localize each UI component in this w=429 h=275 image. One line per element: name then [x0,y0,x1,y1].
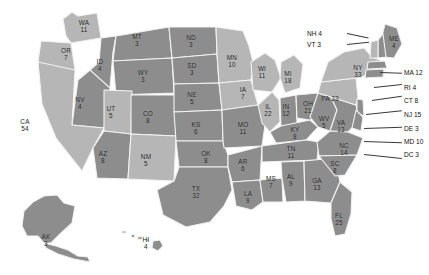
state-ok[interactable] [176,141,228,167]
state-co[interactable] [131,95,176,136]
state-vt[interactable] [370,40,378,58]
callout-ri: RI 4 [404,84,416,91]
state-ut[interactable] [104,90,132,134]
state-al[interactable] [281,161,305,202]
state-nc[interactable] [317,131,363,156]
state-ak[interactable] [22,195,75,243]
state-wi[interactable] [251,53,281,92]
state-mi[interactable] [280,55,303,93]
state-mt[interactable] [113,27,172,61]
state-nd[interactable] [169,27,217,58]
callout-md: MD 10 [404,138,423,145]
state-wa[interactable] [63,12,101,43]
callout-ma: MA 12 [404,69,423,76]
state-shapes [22,12,402,262]
us-electoral-map: WA11OR7CA54NV4ID4MT3WY3UT5CO8AZ8NM5ND3SD… [0,0,429,275]
callout-de: DE 3 [404,125,419,132]
callout-nh: NH 4 [307,30,322,37]
state-wy[interactable] [113,58,174,95]
state-ma[interactable] [367,61,387,69]
state-ne[interactable] [174,83,222,112]
state-nm[interactable] [128,134,176,181]
state-ks[interactable] [174,110,223,141]
state-az[interactable] [93,131,131,179]
state-la[interactable] [232,180,263,210]
callout-dc: DC 3 [404,151,419,158]
state-ct-ri[interactable] [365,69,384,78]
state-tn[interactable] [262,140,319,162]
state-in[interactable] [280,95,297,126]
state-mn[interactable] [216,27,253,83]
state-ms[interactable] [260,178,283,202]
state-ak-aleutians[interactable] [44,243,90,262]
state-ar[interactable] [228,146,262,182]
callout-nj: NJ 15 [404,111,421,118]
state-hi[interactable] [122,231,163,251]
callout-ct: CT 8 [404,97,418,104]
callout-vt: VT 3 [307,41,321,48]
state-sd[interactable] [172,54,219,84]
